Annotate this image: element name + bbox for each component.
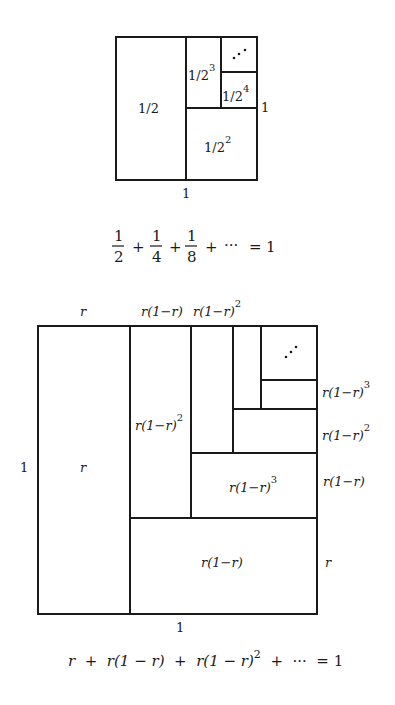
equals: = [249, 238, 262, 256]
plus-1: + [132, 238, 145, 256]
right-label-r1mr3: r(1−r)3 [322, 379, 370, 400]
top-label-r1mr: r(1−r) [141, 304, 183, 319]
right-label-r: r [325, 555, 332, 570]
term2-numerator: 1 [152, 227, 162, 245]
inner-label-r1mr2: r(1−r)2 [135, 412, 183, 433]
label-half: 1/2 [138, 101, 159, 116]
top-square: 1/2 1/22 1/23 1/24 1 1 [116, 37, 269, 201]
top-label-r1mr2: r(1−r)2 [193, 298, 241, 319]
term3-denominator: 8 [187, 248, 197, 266]
inner-label-r1mr: r(1−r) [201, 555, 243, 570]
left-side-label: 1 [20, 460, 28, 475]
right-label-r1mr2: r(1−r)2 [322, 422, 370, 443]
bottom-equation: r + r(1 − r) + r(1 − r)2 + ··· = 1 [68, 648, 343, 670]
right-label-r1mr: r(1−r) [323, 474, 365, 489]
plus-2: + [169, 238, 182, 256]
label-sixteenth: 1/24 [222, 83, 249, 104]
plus-3: + [205, 238, 218, 256]
inner-label-r: r [80, 460, 87, 475]
geometric-series-diagram: 1/2 1/22 1/23 1/24 1 1 1 2 + 1 4 + 1 8 +… [0, 0, 395, 705]
term1-numerator: 1 [114, 227, 124, 245]
label-eighth: 1/23 [188, 62, 215, 83]
term2-denominator: 4 [152, 248, 162, 266]
term3-numerator: 1 [187, 227, 197, 245]
top-label-r: r [80, 304, 87, 319]
bottom-square: r r(1−r) r(1−r)2 r r(1−r)2 r(1−r)3 r(1−r… [20, 298, 370, 635]
ellipsis: ··· [224, 236, 238, 254]
label-quarter: 1/22 [204, 134, 231, 155]
label-top-right-side: 1 [261, 100, 269, 115]
top-equation: 1 2 + 1 4 + 1 8 + ··· = 1 [112, 227, 276, 266]
inner-label-r1mr3: r(1−r)3 [229, 474, 277, 495]
ellipsis-icon [285, 346, 298, 359]
term1-denominator: 2 [114, 248, 124, 266]
rhs-one: 1 [266, 238, 276, 256]
bottom-side-label: 1 [176, 620, 184, 635]
label-top-bottom-side: 1 [182, 186, 190, 201]
ellipsis-icon [233, 49, 247, 60]
